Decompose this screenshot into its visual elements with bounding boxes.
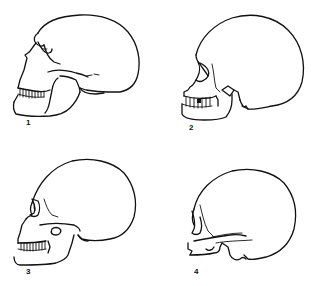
panel-label-2: 2 — [189, 124, 193, 132]
skull-2-drawing — [156, 0, 312, 143]
skull-comparison-figure: 1 2 3 4 — [0, 0, 312, 286]
skull-1-drawing — [0, 0, 156, 143]
skull-4-drawing — [156, 143, 312, 286]
panel-label-3: 3 — [26, 268, 30, 276]
skull-3-drawing — [0, 143, 156, 286]
panel-label-1: 1 — [26, 119, 30, 127]
panel-label-4: 4 — [194, 268, 198, 276]
